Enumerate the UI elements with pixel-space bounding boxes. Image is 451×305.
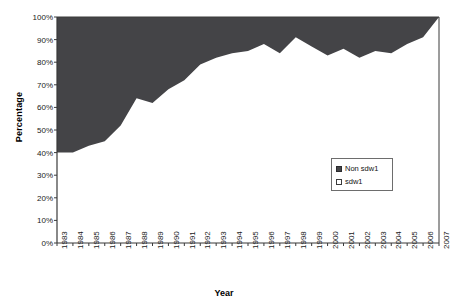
x-tick-label: 1989: [156, 231, 165, 249]
x-tick-label: 1997: [283, 231, 292, 249]
legend-label-non-sdw1: Non sdw1: [345, 164, 378, 173]
legend-item-sdw1: sdw1: [336, 175, 388, 188]
x-tick-label: 1987: [124, 231, 133, 249]
x-axis-title: Year: [0, 288, 448, 298]
x-tick-label: 2005: [410, 231, 419, 249]
legend-item-non-sdw1: Non sdw1: [336, 162, 388, 175]
x-tick-label: 1988: [140, 231, 149, 249]
x-tick-label: 1991: [188, 231, 197, 249]
x-tick-label: 1983: [60, 231, 69, 249]
x-tick-label: 2006: [426, 231, 435, 249]
x-tick-label: 1984: [76, 231, 85, 249]
x-tick-label: 2002: [363, 231, 372, 249]
legend-label-sdw1: sdw1: [345, 177, 363, 186]
x-tick-label: 1993: [219, 231, 228, 249]
x-tick-label: 2004: [394, 231, 403, 249]
x-tick-label: 1998: [299, 231, 308, 249]
x-tick-label: 1996: [267, 231, 276, 249]
x-tick-label: 1995: [251, 231, 260, 249]
x-tick-label: 1986: [108, 231, 117, 249]
legend-swatch-filled-icon: [336, 166, 342, 172]
x-tick-label: 2001: [347, 231, 356, 249]
x-tick-label: 2007: [442, 231, 451, 249]
x-tick-label: 1994: [235, 231, 244, 249]
x-tick-label: 1999: [315, 231, 324, 249]
y-axis-title: Percentage: [14, 72, 24, 162]
x-tick-label: 1985: [92, 231, 101, 249]
legend-swatch-empty-icon: [336, 179, 342, 185]
x-tick-label: 2003: [379, 231, 388, 249]
x-tick-label: 2000: [331, 231, 340, 249]
x-tick-label: 1990: [172, 231, 181, 249]
x-tick-label: 1992: [203, 231, 212, 249]
chart-legend: Non sdw1 sdw1: [331, 158, 393, 191]
